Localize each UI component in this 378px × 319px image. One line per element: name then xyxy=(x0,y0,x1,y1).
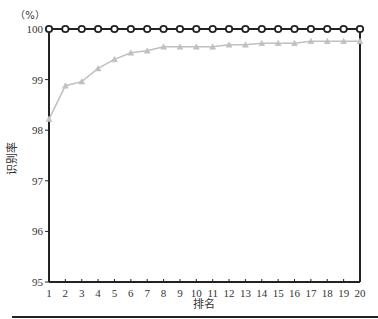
x-tick-label: 8 xyxy=(161,287,167,299)
diamond-marker-icon xyxy=(144,26,150,32)
diamond-marker-icon xyxy=(242,26,248,32)
diamond-marker-icon xyxy=(259,26,265,32)
y-axis-title-text: 识别率 xyxy=(5,142,19,175)
x-tick-label: 14 xyxy=(256,287,268,299)
y-tick-label: 99 xyxy=(32,74,44,86)
diamond-marker-icon xyxy=(128,26,134,32)
x-tick-label: 19 xyxy=(338,287,350,299)
diamond-marker-icon xyxy=(62,26,68,32)
x-tick-label: 7 xyxy=(144,287,150,299)
diamond-marker-icon xyxy=(209,26,215,32)
x-tick-label: 3 xyxy=(79,287,85,299)
x-tick-label: 2 xyxy=(63,287,69,299)
diamond-marker-icon xyxy=(46,26,52,32)
x-tick-label: 4 xyxy=(95,287,101,299)
diamond-marker-icon xyxy=(226,26,232,32)
x-tick-label: 15 xyxy=(273,287,285,299)
diamond-marker-icon xyxy=(79,26,85,32)
triangle-marker-icon xyxy=(46,116,52,122)
diamond-marker-icon xyxy=(275,26,281,32)
diamond-marker-icon xyxy=(357,26,363,32)
y-axis-unit-label: （%） xyxy=(15,10,45,21)
y-tick-label: 97 xyxy=(32,175,44,187)
x-tick-label: 1 xyxy=(46,287,52,299)
line-chart: 识别率 （%） 9596979899100 123456789101112131… xyxy=(0,0,378,319)
diamond-marker-icon xyxy=(340,26,346,32)
diamond-marker-icon xyxy=(177,26,183,32)
x-tick-label: 13 xyxy=(240,287,252,299)
diamond-marker-icon xyxy=(160,26,166,32)
x-axis-title: 排名 xyxy=(193,297,215,311)
diamond-marker-icon xyxy=(324,26,330,32)
bottom-rule-divider xyxy=(12,316,378,318)
y-tick-label: 100 xyxy=(27,23,44,35)
y-tick-label: 96 xyxy=(32,225,44,237)
y-axis-title: 识别率 xyxy=(5,142,19,175)
triangle-marker-icon xyxy=(95,65,101,71)
y-tick-label: 95 xyxy=(32,276,44,288)
x-tick-label: 20 xyxy=(355,287,367,299)
x-tick-label: 6 xyxy=(128,287,134,299)
series-layer xyxy=(46,26,363,122)
series-black-diamond xyxy=(46,26,363,32)
diamond-marker-icon xyxy=(291,26,297,32)
x-tick-label: 12 xyxy=(224,287,235,299)
y-axis-ticks: 9596979899100 xyxy=(27,23,50,288)
diamond-marker-icon xyxy=(193,26,199,32)
x-tick-label: 17 xyxy=(305,287,317,299)
y-tick-label: 98 xyxy=(32,124,44,136)
diamond-marker-icon xyxy=(111,26,117,32)
series-gray-triangle-line xyxy=(49,41,360,119)
x-tick-label: 5 xyxy=(112,287,118,299)
diamond-marker-icon xyxy=(95,26,101,32)
series-gray-triangle xyxy=(46,38,363,121)
diamond-marker-icon xyxy=(308,26,314,32)
x-tick-label: 18 xyxy=(322,287,334,299)
x-tick-label: 9 xyxy=(177,287,183,299)
x-tick-label: 16 xyxy=(289,287,301,299)
